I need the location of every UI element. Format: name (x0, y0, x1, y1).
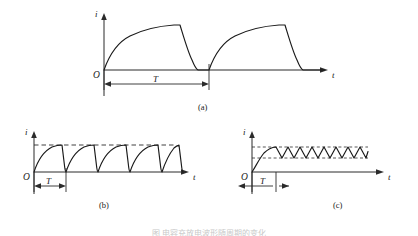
panel-c-sublabel: (c) (333, 200, 342, 210)
y-axis-label-a: i (95, 9, 98, 19)
period-label-a: T (153, 74, 159, 84)
period-arrow-right-a (202, 81, 209, 86)
x-axis-label-a: t (332, 70, 335, 80)
origin-label-a: O (93, 70, 100, 80)
period-arrow-left-a (104, 81, 111, 86)
panel-a-plot: i O t T (88, 8, 350, 100)
y-axis-label-c: i (243, 127, 246, 137)
period-arrow-left-c (238, 183, 245, 188)
y-axis-label-b: i (25, 127, 28, 137)
origin-label-c: O (241, 172, 248, 182)
x-axis-label-b: t (193, 172, 196, 182)
waveform-c (252, 147, 368, 172)
x-axis-label-c: t (388, 172, 391, 182)
y-axis-arrow-b (31, 131, 37, 138)
panel-c-plot: i O t T (228, 126, 408, 198)
period-label-c: T (260, 176, 266, 186)
origin-label-b: O (23, 172, 30, 182)
figure-caption: 图 电容充放电波形随周期的变化 (0, 229, 418, 236)
waveform-a (104, 25, 324, 70)
y-axis-arrow-c (249, 131, 255, 138)
period-arrow-left-b (34, 183, 41, 188)
period-label-b: T (46, 176, 52, 186)
period-arrow-right-b (59, 183, 66, 188)
panel-b-sublabel: (b) (99, 200, 109, 210)
figure-container: i O t T (a) i O t (0, 0, 418, 236)
panel-b: i O t T (18, 126, 208, 198)
panel-c: i O t T (228, 126, 408, 198)
panel-b-plot: i O t T (18, 126, 208, 198)
panel-a-sublabel: (a) (198, 102, 207, 112)
waveform-b (34, 145, 183, 172)
y-axis-arrow-a (101, 13, 107, 20)
x-axis-arrow-c (376, 169, 384, 175)
panel-a: i O t T (88, 8, 350, 100)
